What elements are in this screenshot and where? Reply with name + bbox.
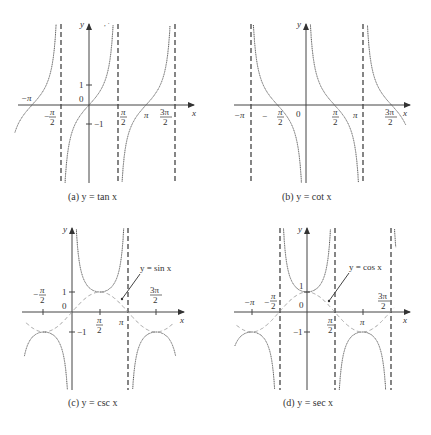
svg-text:3π: 3π [385,107,395,117]
sec-curve [235,229,396,390]
svg-text:π: π [328,315,333,325]
annotation-cos: y = cos x [349,262,382,272]
svg-text:2: 2 [121,117,126,127]
svg-text:π: π [278,107,283,117]
svg-text:π: π [50,107,55,117]
tick-neg1: −1 [94,119,104,129]
panel-csc: y x 1 0 −1 − π 2 π 2 π 3π 2 y = sin x (c… [22,224,184,409]
svg-text:2: 2 [333,117,338,127]
svg-text:2: 2 [153,295,158,305]
tick-neg-pi: −π [244,297,255,307]
tick-neg-half-pi: − π 2 [33,285,46,305]
tick-neg1: −1 [77,327,87,337]
tick-three-half-pi: 3π 2 [378,291,390,311]
y-axis-label: y [79,19,84,29]
svg-text:2: 2 [271,301,276,311]
tick-neg1: −1 [293,327,303,337]
annotation-pointer [122,274,140,299]
y-axis-label: y [297,224,302,234]
svg-text:2: 2 [97,325,102,335]
panel-tan: y x 1 0 −1 −π − π 2 π 2 π 3π 2 , · (a) y… [15,19,196,203]
tick-0: 0 [79,94,84,104]
x-axis-label: x [402,315,407,325]
annotation-pointer [329,273,349,301]
tick-half-pi: π 2 [120,107,127,127]
tick-pi: π [360,317,365,327]
tick-three-half-pi: 3π 2 [385,107,397,127]
svg-text:π: π [271,291,276,301]
tick-1: 1 [62,287,67,297]
svg-text:−: − [262,111,267,121]
tick-neg-pi: −π [21,93,32,103]
tick-neg-half-pi: − π 2 [264,291,277,311]
svg-text:2: 2 [381,301,386,311]
svg-text:3π: 3π [150,285,160,295]
svg-text:3π: 3π [160,107,170,117]
panel-cot: y x −π − π 2 0 π 2 π 3π 2 (b) y = cot x [234,19,410,203]
svg-text:π: π [97,315,102,325]
svg-text:2: 2 [388,117,393,127]
x-axis-label: x [191,108,196,118]
tick-0: 0 [296,109,301,119]
x-axis-label: x [402,108,407,118]
tick-three-half-pi: 3π 2 [160,107,172,127]
svg-text:3π: 3π [378,291,388,301]
svg-text:2: 2 [163,117,168,127]
svg-text:−: − [264,297,269,307]
svg-text:2: 2 [40,295,45,305]
svg-text:−: − [44,111,49,121]
tick-half-pi: π 2 [327,315,334,335]
tick-neg-half-pi: − π 2 [44,107,56,127]
cot-curve [253,25,405,183]
svg-text:2: 2 [50,117,55,127]
svg-text:π: π [40,285,45,295]
tick-pi: π [119,317,124,327]
caption-b: (b) y = cot x [282,191,332,203]
tick-1: 1 [79,80,84,90]
caption-a: (a) y = tan x [68,191,117,203]
tick-1: 1 [299,281,304,291]
svg-text:2: 2 [328,325,333,335]
tick-0: 0 [299,300,304,310]
svg-text:π: π [121,107,126,117]
x-axis-label: x [179,315,184,325]
stray-mark: , · [104,20,110,28]
tick-half-pi: π 2 [332,107,339,127]
svg-text:π: π [333,107,338,117]
svg-text:2: 2 [278,117,283,127]
tick-0: 0 [62,301,67,311]
tick-neg-half-pi: − π 2 [262,107,284,127]
tick-pi: π [353,110,358,120]
trig-graphs-figure: y x 1 0 −1 −π − π 2 π 2 π 3π 2 , · (a) y… [0,0,431,435]
y-axis-label: y [296,19,301,29]
tan-curve [15,24,170,182]
tick-three-half-pi: 3π 2 [150,285,162,305]
tick-neg-pi: −π [234,110,245,120]
svg-text:−: − [33,289,38,299]
tick-half-pi: π 2 [96,315,103,335]
y-axis-label: y [62,224,67,234]
annotation-sin: y = sin x [140,263,172,273]
tick-pi: π [144,110,149,120]
panel-sec: y x 1 0 −1 −π − π 2 π 2 π 3π 2 y = cos x… [234,224,410,409]
caption-c: (c) y = csc x [68,397,118,409]
caption-d: (d) y = sec x [283,397,333,409]
